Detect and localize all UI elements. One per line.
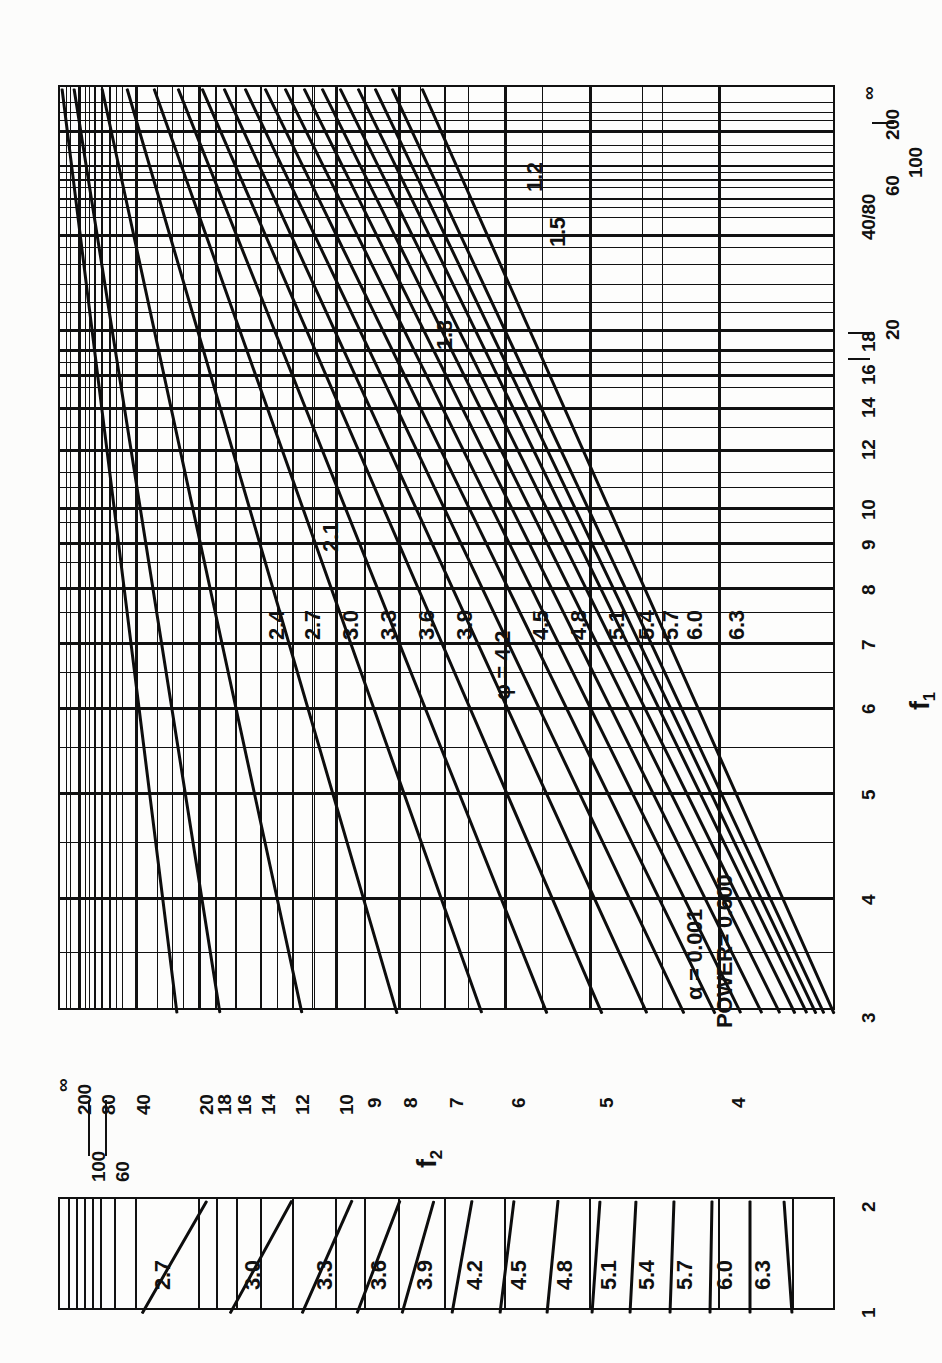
f2-tick-16: 16 xyxy=(234,1094,256,1115)
f2-tick-80: 80 xyxy=(98,1094,120,1115)
f2-axis-title-subscript: 2 xyxy=(427,1150,446,1159)
curve-label-phi-3.6: 3.6 xyxy=(414,610,440,640)
f1-tick-20: 20 xyxy=(882,319,904,340)
gridline-f2-minor xyxy=(277,87,278,1008)
sub-gridline xyxy=(444,1199,446,1308)
sub-gridline xyxy=(589,1199,591,1308)
gridline-f1-minor xyxy=(60,284,833,285)
gridline-f1-minor xyxy=(60,387,833,388)
f2-tick-6: 6 xyxy=(508,1098,530,1108)
alpha-annotation: α = 0.001 xyxy=(682,909,708,1000)
gridline-f2-minor xyxy=(66,87,67,1008)
curve-label-phi-5.4: 5.4 xyxy=(634,610,660,640)
f2-tick-7: 7 xyxy=(446,1098,468,1108)
gridline-f2-minor xyxy=(420,87,421,1008)
sub-curve-label-phi-3.0: 3.0 xyxy=(240,1260,266,1290)
gridline-f1-minor xyxy=(60,120,833,121)
f2-tick-8: 8 xyxy=(400,1098,422,1108)
curve-label-phi-1.5: 1.5 xyxy=(545,217,571,247)
sub-gridline xyxy=(216,1199,218,1308)
sub-curve-phi-3.6 xyxy=(356,1200,402,1314)
gridline-f1-9 xyxy=(60,542,833,545)
f1-tick-16: 16 xyxy=(858,364,880,385)
gridline-f2-9 xyxy=(364,87,366,1008)
f1-tick-3: 3 xyxy=(858,1013,880,1023)
f2-label-separator xyxy=(105,1100,107,1156)
gridline-f1-minor xyxy=(60,842,833,843)
sub-curve-label-phi-5.1: 5.1 xyxy=(596,1260,622,1290)
f1-tick-6: 6 xyxy=(858,704,880,714)
sub-curve-phi-4.8 xyxy=(546,1200,560,1313)
sub-curve-label-phi-5.4: 5.4 xyxy=(634,1260,660,1290)
sub-curve-label-phi-3.6: 3.6 xyxy=(366,1260,392,1290)
f1-axis-title-subscript: 1 xyxy=(920,692,939,701)
gridline-f2-4 xyxy=(718,87,721,1008)
sub-gridline xyxy=(236,1199,238,1308)
gridline-f1-minor xyxy=(60,672,833,673)
curve-phi-2.7 xyxy=(177,88,549,1014)
f1-tick-10: 10 xyxy=(858,499,880,520)
gridline-f1-minor xyxy=(60,487,833,488)
sub-curve-label-phi-3.9: 3.9 xyxy=(412,1260,438,1290)
gridline-f2-7 xyxy=(444,87,446,1008)
curve-phi-3.6 xyxy=(244,88,686,1014)
curve-label-phi-3.0: 3.0 xyxy=(338,610,364,640)
power-annotation: POWER= 0.600 xyxy=(712,874,738,1028)
f2-tick-12: 12 xyxy=(292,1094,314,1115)
gridline-f2-minor xyxy=(662,87,663,1008)
f1-tick-9: 9 xyxy=(858,540,880,550)
gridline-f2-minor xyxy=(468,87,469,1008)
f1-tick-8: 8 xyxy=(858,585,880,595)
curve-label-phi-6.0: 6.0 xyxy=(682,610,708,640)
sub-curve-phi-4.2 xyxy=(451,1200,474,1314)
curve-label-phi-1.8: 1.8 xyxy=(432,320,458,350)
gridline-f1-minor xyxy=(60,217,833,218)
sub-curve-phi-4.5 xyxy=(499,1200,516,1313)
curve-label-phi-2.1: 2.1 xyxy=(318,522,344,552)
gridline-f1-minor xyxy=(60,562,833,563)
curve-label-phi-6.3: 6.3 xyxy=(724,610,750,640)
f1-tick-60: 60 xyxy=(882,175,904,196)
curve-phi-6.3 xyxy=(421,88,836,1014)
gridline-f1-minor xyxy=(60,102,833,103)
sub-axis-label-2: 2 xyxy=(858,1202,880,1212)
sub-curve-label-phi-4.2: 4.2 xyxy=(462,1260,488,1290)
gridline-f1-80 xyxy=(60,179,833,181)
curve-label-phi-3.3: 3.3 xyxy=(376,610,402,640)
f1-tick-18: 18 xyxy=(858,331,880,352)
sub-gridline xyxy=(84,1199,86,1308)
curve-phi-4.2 xyxy=(284,88,743,1014)
f2-tick-60: 60 xyxy=(112,1161,134,1182)
f1-tick-inf: ∞ xyxy=(858,87,880,100)
f2-tick-40: 40 xyxy=(133,1094,155,1115)
curve-label-phi-1.2: 1.2 xyxy=(522,162,548,192)
sub-axis-label-1: 1 xyxy=(858,1308,880,1318)
f1-label-separator xyxy=(848,358,870,360)
f2-axis-title-letter: f xyxy=(412,1159,442,1168)
f1-tick-100: 100 xyxy=(905,147,927,178)
sub-gridline xyxy=(718,1199,720,1308)
gridline-f1-minor xyxy=(60,522,833,523)
sub-curve-phi-6.0 xyxy=(709,1200,714,1313)
figure-page: 1.21.51.82.12.42.73.03.33.63.94.54.85.15… xyxy=(0,0,942,1363)
f1-tick-5: 5 xyxy=(858,790,880,800)
phi-equals-label: φ = 4.2 xyxy=(490,631,516,700)
f1-tick-14: 14 xyxy=(858,397,880,418)
gridline-f1-minor xyxy=(60,612,833,613)
gridline-f2-18 xyxy=(215,87,217,1008)
sub-curve-phi-3.9 xyxy=(401,1200,436,1314)
main-plot-frame xyxy=(58,85,835,1010)
f2-tick-14: 14 xyxy=(258,1094,280,1115)
gridline-f2-minor xyxy=(542,87,543,1008)
f1-label-separator xyxy=(848,332,874,334)
f1-tick-7: 7 xyxy=(858,640,880,650)
gridline-f2-80 xyxy=(101,87,103,1008)
f1-label-separator xyxy=(872,122,894,124)
gridline-f1-14 xyxy=(60,407,833,410)
gridline-f1-minor xyxy=(60,472,833,473)
curve-label-phi-2.4: 2.4 xyxy=(264,610,290,640)
gridline-f1-minor xyxy=(60,187,833,188)
sub-gridline xyxy=(792,1199,794,1308)
sub-curve-label-phi-4.8: 4.8 xyxy=(552,1260,578,1290)
gridline-f2-60 xyxy=(109,87,111,1008)
